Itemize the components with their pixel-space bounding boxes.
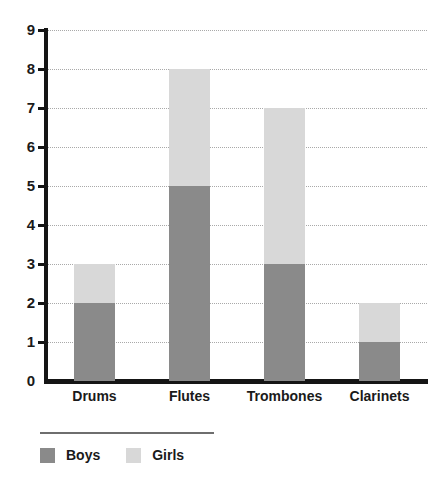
legend-swatch-girls bbox=[126, 448, 141, 463]
bar-segment-flutes-girls bbox=[169, 69, 210, 186]
y-axis-tick-label-6: 6 bbox=[13, 139, 35, 154]
stacked-bar-chart-figure: 0123456789 DrumsFlutesTrombonesClarinets… bbox=[0, 0, 448, 478]
legend-item-boys: Boys bbox=[40, 448, 100, 463]
bar-segment-clarinets-girls bbox=[359, 303, 400, 342]
y-axis-tick-label-4: 4 bbox=[13, 217, 35, 232]
plot-area bbox=[47, 30, 427, 381]
y-axis-tick-label-5: 5 bbox=[13, 178, 35, 193]
bar-segment-flutes-boys bbox=[169, 186, 210, 381]
y-axis-tick-label-1: 1 bbox=[13, 334, 35, 349]
x-axis-label-flutes: Flutes bbox=[135, 389, 245, 404]
bar-segment-drums-boys bbox=[74, 303, 115, 381]
y-axis-tick-label-8: 8 bbox=[13, 61, 35, 76]
x-axis-label-trombones: Trombones bbox=[230, 389, 340, 404]
x-axis-label-drums: Drums bbox=[40, 389, 150, 404]
y-axis-tick-label-9: 9 bbox=[13, 22, 35, 37]
bar-segment-drums-girls bbox=[74, 264, 115, 303]
x-axis-label-clarinets: Clarinets bbox=[325, 389, 435, 404]
legend-label-boys: Boys bbox=[66, 448, 100, 462]
legend-swatch-boys bbox=[40, 448, 55, 463]
y-axis-tick-label-0: 0 bbox=[13, 373, 35, 388]
bar-segment-trombones-boys bbox=[264, 264, 305, 381]
legend-label-girls: Girls bbox=[152, 448, 184, 462]
legend-separator-rule bbox=[40, 432, 214, 434]
bar-segment-trombones-girls bbox=[264, 108, 305, 264]
chart-legend: BoysGirls bbox=[40, 443, 210, 467]
y-axis-tick-label-7: 7 bbox=[13, 100, 35, 115]
y-axis-tick-label-2: 2 bbox=[13, 295, 35, 310]
legend-item-girls: Girls bbox=[126, 448, 184, 463]
bar-segment-clarinets-boys bbox=[359, 342, 400, 381]
y-axis-tick-label-3: 3 bbox=[13, 256, 35, 271]
